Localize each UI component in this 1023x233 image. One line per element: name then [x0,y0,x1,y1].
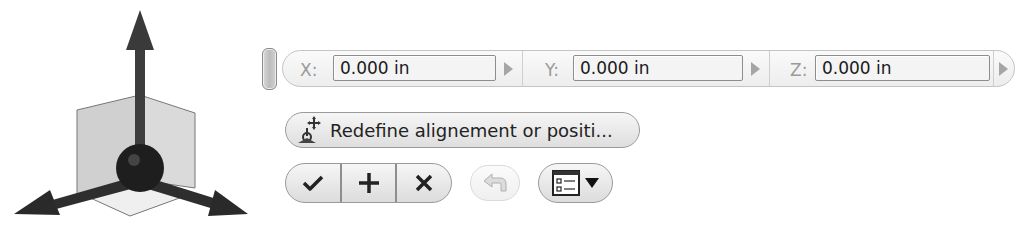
cancel-button[interactable] [397,164,451,202]
checkmark-icon [302,174,324,192]
dropdown-triangle-icon [584,177,600,189]
redefine-alignment-button[interactable]: Redefine alignement or positi... [285,112,640,148]
z-expand-arrow-icon[interactable] [999,62,1008,76]
undo-button[interactable] [470,165,520,201]
redefine-label: Redefine alignement or positi... [330,120,613,141]
plus-icon [358,172,380,194]
divider [769,51,770,86]
z-label: Z: [790,60,807,80]
redefine-alignment-icon [298,116,324,144]
y-label: Y: [545,60,559,80]
options-list-icon [552,170,580,196]
z-coordinate-input[interactable]: 0.000 in [815,55,990,81]
divider [522,51,523,86]
x-label: X: [300,60,317,80]
apply-button[interactable] [342,164,398,202]
options-dropdown-button[interactable] [538,163,613,203]
y-coordinate-input[interactable]: 0.000 in [573,55,743,81]
action-button-group [285,163,452,203]
close-icon [415,174,433,192]
triad-manipulator[interactable] [0,0,260,233]
divider [993,51,994,86]
ok-button[interactable] [286,164,342,202]
x-coordinate-input[interactable]: 0.000 in [333,55,496,81]
x-expand-arrow-icon[interactable] [504,62,513,76]
undo-arrow-icon [482,173,508,193]
drag-grip-icon[interactable] [262,48,277,90]
y-expand-arrow-icon[interactable] [751,62,760,76]
3d-coordinate-triad-icon [0,0,260,233]
